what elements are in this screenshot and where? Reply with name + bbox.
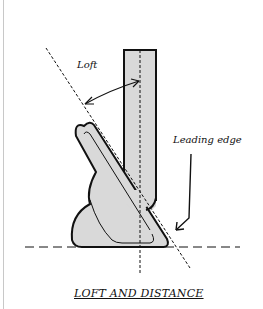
golf-club-loft-diagram [0,0,263,309]
leading-edge-arrow [176,154,191,230]
leading-edge-label: Leading edge [173,134,242,145]
loft-label: Loft [77,59,97,70]
diagram-page: Loft Leading edge LOFT AND DISTANCE [0,0,263,309]
diagram-caption: LOFT AND DISTANCE [74,287,204,300]
